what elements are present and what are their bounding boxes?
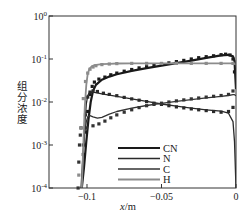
data-marker [212, 54, 215, 57]
data-marker [88, 68, 91, 71]
legend-label: H [163, 174, 171, 185]
data-marker [86, 72, 89, 75]
x-axis-ticks: −0.1−0.050 [78, 184, 239, 202]
legend: CNNCH [118, 143, 178, 186]
data-marker [138, 99, 141, 102]
legend-item-h: H [118, 174, 171, 185]
data-marker [91, 65, 94, 68]
data-marker [97, 78, 100, 81]
data-marker [152, 103, 155, 106]
data-marker [182, 59, 185, 62]
data-marker [130, 62, 133, 65]
data-marker [79, 126, 82, 129]
data-marker [205, 109, 208, 112]
y-tick-label: 10-4 [31, 182, 47, 194]
data-marker [175, 62, 178, 65]
series-line [81, 95, 236, 188]
data-marker [85, 126, 88, 129]
x-axis-title: x/m [119, 201, 136, 212]
data-marker [84, 80, 87, 83]
x-tick-label: 0 [234, 191, 239, 202]
data-marker [86, 110, 89, 113]
data-marker [160, 62, 163, 65]
data-marker [231, 89, 234, 92]
plot-frame [49, 16, 236, 188]
data-marker [138, 66, 141, 69]
data-marker [145, 100, 148, 103]
data-marker [130, 108, 133, 111]
data-marker [145, 62, 148, 65]
data-marker [220, 94, 223, 97]
legend-label: CN [163, 143, 178, 154]
y-tick-label: 10-1 [31, 53, 47, 65]
data-marker [109, 116, 112, 119]
data-marker [79, 134, 82, 137]
data-marker [227, 110, 230, 113]
y-axis-title: 组分浓度 [17, 80, 28, 125]
data-marker [91, 124, 94, 127]
data-marker [130, 68, 133, 71]
legend-item-c: C [118, 164, 170, 175]
data-marker [167, 100, 170, 103]
data-marker [220, 111, 223, 114]
data-marker [102, 92, 105, 95]
data-marker [78, 143, 81, 146]
data-marker [108, 62, 111, 65]
legend-item-n: N [118, 153, 171, 164]
data-marker [115, 113, 118, 116]
data-marker [130, 97, 133, 100]
data-marker [231, 57, 234, 60]
data-marker [212, 95, 215, 98]
data-marker [197, 108, 200, 111]
y-tick-label: 10-3 [31, 139, 47, 151]
data-marker [197, 96, 200, 99]
legend-label: C [163, 164, 170, 175]
data-marker [123, 111, 126, 114]
data-marker [145, 104, 148, 107]
x-tick-label: −0.05 [150, 191, 173, 202]
y-tick-label: 10-2 [31, 96, 47, 108]
data-marker [88, 91, 91, 94]
data-marker [115, 62, 118, 65]
data-marker [227, 93, 230, 96]
legend-item-cn: CN [118, 143, 178, 154]
data-marker [94, 64, 97, 67]
data-marker [231, 62, 234, 65]
data-marker [205, 96, 208, 99]
x-tick-label: −0.1 [78, 191, 96, 202]
data-marker [190, 97, 193, 100]
data-marker [160, 102, 163, 105]
data-marker [91, 85, 94, 88]
data-marker [123, 96, 126, 99]
series-line [82, 92, 236, 188]
data-marker [115, 72, 118, 75]
data-marker [115, 94, 118, 97]
data-marker [109, 73, 112, 76]
data-marker [182, 98, 185, 101]
data-marker [97, 122, 100, 125]
data-marker [103, 76, 106, 79]
data-marker [231, 106, 234, 109]
data-marker [152, 64, 155, 67]
data-marker [82, 97, 85, 100]
data-marker [103, 120, 106, 123]
data-marker [86, 96, 89, 99]
data-marker [224, 53, 227, 56]
data-marker [205, 62, 208, 65]
data-marker [138, 106, 141, 109]
data-marker [220, 62, 223, 65]
y-tick-label: 100 [34, 10, 48, 22]
data-marker [175, 99, 178, 102]
legend-label: N [163, 153, 171, 164]
data-marker [123, 70, 126, 73]
data-marker [197, 56, 200, 59]
data-marker [220, 53, 223, 56]
data-marker [190, 107, 193, 110]
data-marker [205, 55, 208, 58]
data-marker [100, 63, 103, 66]
data-marker [108, 93, 111, 96]
data-marker [212, 110, 215, 113]
data-marker [228, 53, 231, 56]
data-marker [93, 81, 96, 84]
data-marker [182, 106, 185, 109]
